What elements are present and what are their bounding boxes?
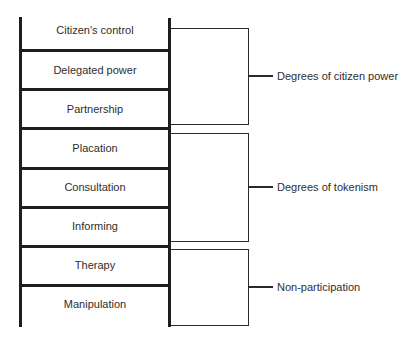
rung-label-delegated-power: Delegated power: [22, 63, 168, 77]
rung-label-manipulation: Manipulation: [22, 297, 168, 311]
ladder-rung-line: [19, 284, 171, 287]
group-label-tokenism: Degrees of tokenism: [277, 180, 378, 194]
rung-label-citizens-control: Citizen's control: [22, 23, 168, 37]
rung-label-informing: Informing: [22, 219, 168, 233]
connector-citizen-power: [248, 75, 273, 77]
connector-tokenism: [248, 186, 273, 188]
ladder-rung-line: [19, 88, 171, 91]
group-label-non-participation: Non-participation: [277, 280, 360, 294]
bracket-citizen-power: [171, 28, 249, 125]
bracket-non-participation: [171, 249, 249, 326]
rung-label-consultation: Consultation: [22, 180, 168, 194]
rung-label-placation: Placation: [22, 141, 168, 155]
bracket-tokenism: [171, 133, 249, 242]
ladder-rung-line: [19, 206, 171, 209]
ladder-diagram: Citizen's control Delegated power Partne…: [0, 0, 401, 341]
ladder-rung-line: [19, 167, 171, 170]
group-label-citizen-power: Degrees of citizen power: [277, 69, 398, 83]
rung-label-partnership: Partnership: [22, 102, 168, 116]
ladder-rung-line: [19, 127, 171, 130]
ladder-rung-line: [19, 49, 171, 52]
ladder-rung-line: [19, 245, 171, 248]
connector-non-participation: [248, 286, 273, 288]
rung-label-therapy: Therapy: [22, 258, 168, 272]
